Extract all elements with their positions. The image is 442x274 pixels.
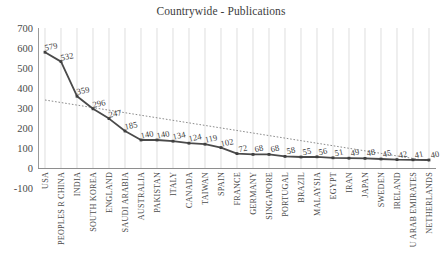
data-point-marker [268,153,271,156]
data-label: 45 [382,149,392,159]
data-label: 102 [220,137,234,148]
x-axis-category-label: SINGAPORE [265,172,274,220]
x-axis-category-label: ITALY [169,172,178,196]
y-axis-tick: 500 [0,63,33,74]
x-axis-category-label: USA [41,172,50,189]
x-axis-category-label: JAPAN [361,172,370,198]
data-label: 56 [318,146,328,156]
data-point-marker [364,157,367,160]
x-axis-category-label: ENGLAND [105,172,114,213]
data-point-marker [380,158,383,161]
x-axis-category-label: AUSTRALIA [137,172,146,220]
y-axis-tick: 600 [0,43,33,54]
plot-area: 5795323592962471851401401341241191027268… [38,28,436,168]
x-axis-category-label: EGYPT [329,172,338,199]
data-label: 68 [270,144,280,154]
y-axis-tick: 400 [0,83,33,94]
x-axis-labels: USAPEOPLES R CHINAINDIASOUTH KOREAENGLAN… [38,170,436,274]
x-axis-category-label: IRELAND [393,172,402,209]
x-axis-line [38,168,436,169]
y-axis-tick: 0 [0,163,33,174]
y-axis-tick: 100 [0,143,33,154]
data-label: 49 [350,148,360,158]
data-label: 247 [108,108,122,119]
x-axis-category-label: CANADA [185,172,194,208]
x-axis-category-label: SPAIN [217,172,226,196]
x-axis-category-label: BRAZIL [297,172,306,203]
y-axis: 7006005004003002001000-100 [0,28,36,168]
chart-title: Countrywide - Publications [0,5,442,17]
x-axis-category-label: TAIWAN [201,172,210,205]
data-point-marker [300,156,303,159]
y-axis-tick: 700 [0,23,33,34]
data-label: 42 [398,149,408,159]
y-axis-tick: -100 [0,183,33,194]
y-axis-tick: 200 [0,123,33,134]
data-point-marker [284,155,287,158]
data-point-marker [396,158,399,161]
data-point-marker [236,152,239,155]
data-label: 72 [238,143,248,153]
data-point-marker [316,155,319,158]
data-label: 296 [92,98,106,109]
x-axis-category-label: NETHERLANDS [425,172,434,234]
data-point-marker [332,156,335,159]
x-axis-category-label: GERMANY [249,172,258,215]
x-axis-category-label: SAUDI ARABIA [121,172,130,232]
x-axis-category-label: PEOPLES R CHINA [57,172,66,245]
x-axis-category-label: SOUTH KOREA [89,172,98,232]
chart-container: Countrywide - Publications 7006005004003… [0,0,442,274]
data-label: 40 [430,150,440,160]
x-axis-category-label: MALAYSIA [313,172,322,216]
x-axis-category-label: FRANCE [233,172,242,206]
x-axis-category-label: PAKISTAN [153,172,162,213]
x-axis-category-label: IRAN [345,172,354,193]
x-axis-category-label: PORTUGAL [281,172,290,217]
data-label: 48 [366,148,376,158]
data-label: 51 [334,147,344,157]
x-axis-category-label: U ARAB EMIRATES [409,172,418,247]
data-point-marker [428,159,431,162]
data-label: 68 [254,144,264,154]
data-point-marker [412,158,415,161]
x-axis-category-label: INDIA [73,172,82,196]
data-point-marker [252,153,255,156]
data-point-marker [348,157,351,160]
data-label: 532 [60,51,74,62]
data-label: 55 [302,147,312,157]
y-axis-tick: 300 [0,103,33,114]
data-label: 41 [414,149,424,159]
data-label: 58 [286,146,296,156]
x-axis-category-label: SWEDEN [377,172,386,207]
